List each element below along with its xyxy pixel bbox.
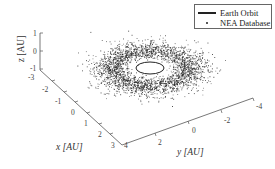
line-swatch-icon	[198, 12, 216, 14]
x-tick: 1	[84, 119, 88, 128]
y-tick: -2	[224, 116, 230, 125]
x-tick: 0	[71, 108, 75, 117]
y-axis	[122, 98, 253, 145]
y-tick: 0	[192, 126, 196, 135]
earth-orbit-line	[136, 62, 164, 74]
legend-item-nea-database: NEA Database	[197, 17, 270, 28]
y-axis-label: y [AU]	[177, 147, 204, 157]
x-tick: 2	[98, 130, 102, 139]
z-axis-label: z [AU]	[16, 36, 26, 63]
x-tick: -1	[55, 97, 61, 106]
z-tick: -1	[30, 64, 36, 73]
x-tick: 3	[111, 141, 115, 150]
nea-points	[77, 31, 226, 107]
z-tick: 0	[33, 47, 37, 56]
y-tick: -4	[256, 102, 262, 111]
z-tick: 1	[33, 29, 37, 38]
x-tick: -2	[42, 85, 48, 94]
y-tick: 2	[158, 138, 162, 147]
x-axis-label: x [AU]	[56, 142, 83, 152]
legend: Earth Orbit NEA Database	[194, 4, 272, 29]
legend-label: Earth Orbit	[220, 8, 258, 18]
dot-swatch-icon	[206, 22, 208, 24]
x-tick: -3	[28, 73, 34, 82]
legend-label: NEA Database	[220, 18, 270, 28]
y-tick: 4	[124, 141, 128, 150]
